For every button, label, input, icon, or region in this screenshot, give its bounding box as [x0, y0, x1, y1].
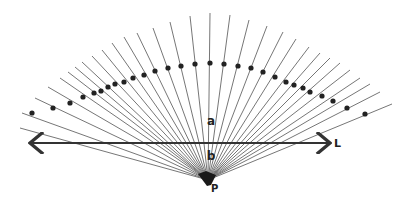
ray-line	[75, 67, 208, 180]
ray-dot	[98, 88, 103, 93]
dots-group	[29, 60, 367, 116]
ray-dot	[165, 65, 170, 70]
label-l: L	[334, 137, 341, 150]
ray-line	[124, 37, 208, 180]
ray-dot	[178, 63, 183, 68]
ray-line	[60, 78, 208, 180]
ray-dot	[91, 90, 96, 95]
ray-dot	[260, 69, 265, 74]
ray-dot	[307, 89, 312, 94]
ray-dot	[29, 110, 34, 115]
ray-dot	[300, 85, 305, 90]
ray-dot	[362, 111, 367, 116]
ray-dot	[207, 60, 212, 65]
ray-line	[208, 39, 296, 180]
ray-dot	[291, 82, 296, 87]
label-p: P	[211, 183, 218, 194]
ray-line	[92, 56, 208, 180]
ray-dot	[192, 61, 197, 66]
ray-dot	[283, 79, 288, 84]
ray-dot	[272, 74, 277, 79]
label-b: b	[207, 149, 216, 163]
ray-dot	[50, 105, 55, 110]
ray-line	[208, 63, 340, 180]
ray-dot	[330, 98, 335, 103]
ray-dot	[130, 75, 135, 80]
label-a: a	[207, 114, 215, 128]
fan-diagram: a b P L	[0, 0, 410, 198]
ray-dot	[319, 93, 324, 98]
ray-line	[68, 72, 208, 180]
ray-line	[48, 87, 208, 180]
ray-dot	[67, 100, 72, 105]
ray-dot	[121, 79, 126, 84]
ray-dot	[152, 68, 157, 73]
ray-dot	[80, 94, 85, 99]
ray-dot	[248, 65, 253, 70]
ray-dot	[344, 105, 349, 110]
ray-dot	[141, 72, 146, 77]
ray-dot	[112, 81, 117, 86]
ray-dot	[235, 63, 240, 68]
ray-dot	[105, 84, 110, 89]
ray-line	[208, 92, 380, 180]
ray-dot	[221, 61, 226, 66]
